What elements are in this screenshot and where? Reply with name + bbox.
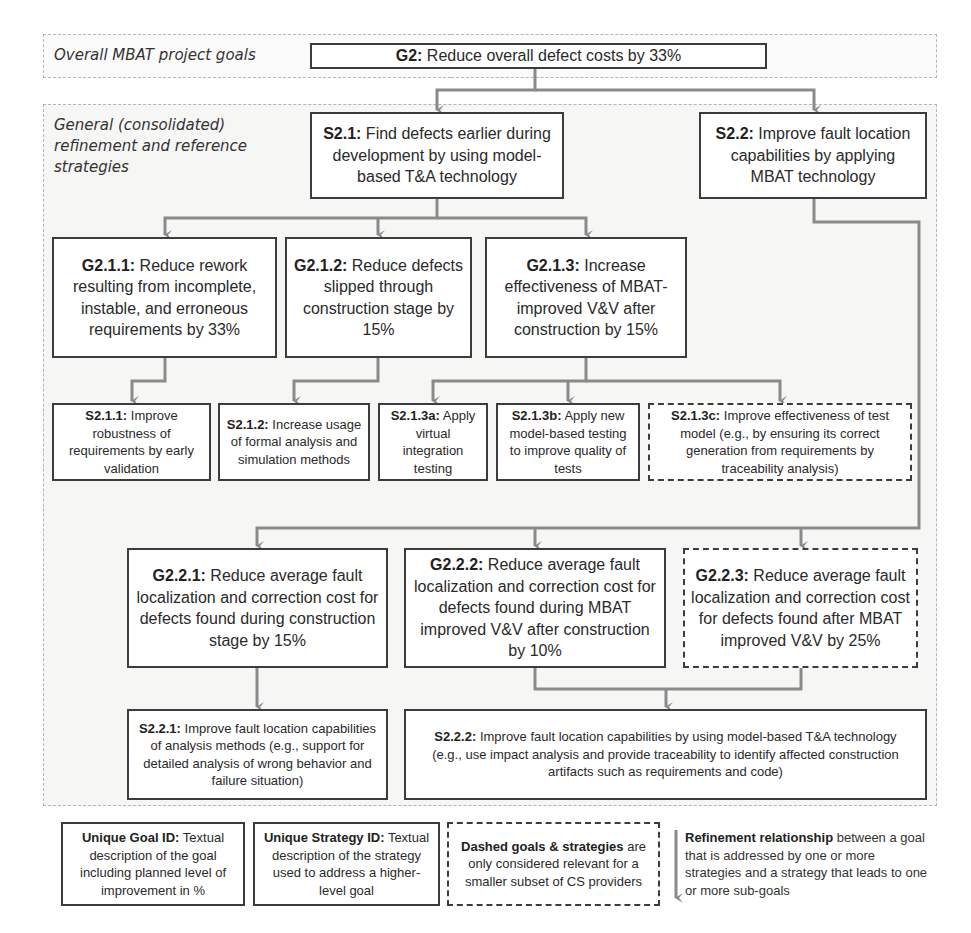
legend-strategy: Unique Strategy ID: Textual description … <box>253 822 440 906</box>
strategy-s2-2-2: S2.2.2: Improve fault location capabilit… <box>404 709 927 800</box>
goal-g2: G2: Reduce overall defect costs by 33% <box>310 43 767 69</box>
goal-g2-2-3: G2.2.3: Reduce average fault localizatio… <box>683 548 918 668</box>
strategy-s2-1-3a: S2.1.3a: Apply virtual integration testi… <box>378 403 488 481</box>
strategy-s2-2: S2.2: Improve fault location capabilitie… <box>699 112 927 199</box>
strategy-s2-1-3b: S2.1.3b: Apply new model-based testing t… <box>496 403 640 481</box>
strategy-id: S2.1.1: <box>85 408 127 423</box>
strategy-s2-1-1: S2.1.1: Improve robustness of requiremen… <box>52 403 211 481</box>
goal-g2-1-1: G2.1.1: Reduce rework resulting from inc… <box>52 237 277 358</box>
goal-text: Reduce overall defect costs by 33% <box>422 47 681 64</box>
strategy-text: Find defects earlier during development … <box>332 125 550 185</box>
legend-goal: Unique Goal ID: Textual description of t… <box>61 822 245 906</box>
strategy-id: S2.1.3c: <box>671 408 720 423</box>
strategy-text: Improve fault location capabilities by a… <box>731 125 911 185</box>
region-label-refinement-strategies: General (consolidated) refinement and re… <box>54 115 247 178</box>
strategy-id: S2.1.3a: <box>391 408 440 423</box>
strategy-id: S2.2.2: <box>434 729 476 744</box>
legend-goal-title: Unique Goal ID: <box>82 830 180 845</box>
goal-g2-2-2: G2.2.2: Reduce average fault localizatio… <box>404 548 666 668</box>
region-label-line: strategies <box>54 157 247 178</box>
legend-dashed-title: Dashed goals & strategies <box>461 839 624 854</box>
goal-id: G2.1.2: <box>294 257 347 274</box>
legend-dashed: Dashed goals & strategies are only consi… <box>447 822 660 906</box>
goal-g2-1-2: G2.1.2: Reduce defects slipped through c… <box>285 237 472 358</box>
strategy-text: Improve fault location capabilities by u… <box>432 729 899 779</box>
goal-id: G2.2.3: <box>696 567 749 584</box>
strategy-s2-1: S2.1: Find defects earlier during develo… <box>310 112 564 199</box>
legend-refinement: Refinement relationship between a goal t… <box>685 829 930 899</box>
goal-id: G2.1.1: <box>82 257 135 274</box>
legend-refinement-title: Refinement relationship <box>685 830 833 845</box>
region-label-overall-goals: Overall MBAT project goals <box>54 45 256 66</box>
strategy-id: S2.1.3b: <box>512 408 562 423</box>
legend-strategy-title: Unique Strategy ID: <box>264 830 385 845</box>
strategy-id: S2.1.2: <box>227 417 269 432</box>
goal-g2-1-3: G2.1.3: Increase effectiveness of MBAT-i… <box>485 237 687 358</box>
strategy-id: S2.1: <box>323 125 361 142</box>
region-label-line: General (consolidated) <box>54 115 247 136</box>
goal-id: G2.1.3: <box>526 257 579 274</box>
goal-id: G2.2.1: <box>153 567 206 584</box>
strategy-id: S2.2: <box>716 125 754 142</box>
strategy-id: S2.2.1: <box>139 721 181 736</box>
region-label-line: refinement and reference <box>54 136 247 157</box>
goal-g2-2-1: G2.2.1: Reduce average fault localizatio… <box>127 548 388 668</box>
goal-id: G2: <box>396 47 423 64</box>
strategy-s2-2-1: S2.2.1: Improve fault location capabilit… <box>127 709 388 800</box>
strategy-s2-1-3c: S2.1.3c: Improve effectiveness of test m… <box>648 403 912 481</box>
goal-id: G2.2.2: <box>430 556 483 573</box>
strategy-s2-1-2: S2.1.2: Increase usage of formal analysi… <box>218 403 370 481</box>
